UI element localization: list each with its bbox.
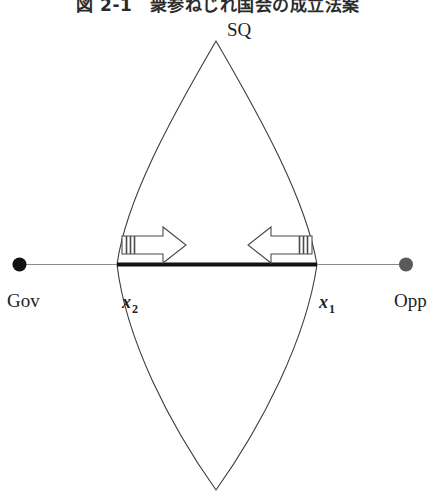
gov-point-marker — [13, 258, 27, 272]
x1-boundary-label: x1 — [319, 292, 335, 317]
gov-label: Gov — [7, 290, 40, 312]
right-arrow-body — [248, 227, 312, 263]
x1-subscript: 1 — [328, 302, 335, 316]
right-arrow-pointing-left — [248, 227, 312, 263]
figure-container: 図 2-1 衆参ねじれ国会の成立法案 SQ Gov Opp x2 x — [0, 0, 436, 503]
status-quo-label: SQ — [227, 19, 251, 41]
left-arrow-body — [122, 227, 186, 263]
opp-label: Opp — [394, 290, 427, 312]
x1-base: x — [319, 292, 328, 312]
left-arrow-pointing-right — [122, 227, 186, 263]
x2-base: x — [122, 292, 131, 312]
x2-subscript: 2 — [131, 302, 138, 316]
diagram-canvas — [0, 0, 436, 503]
x2-boundary-label: x2 — [122, 292, 138, 317]
opp-point-marker — [399, 258, 413, 272]
